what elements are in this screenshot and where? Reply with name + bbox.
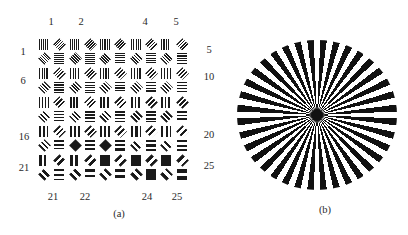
diagonal-bars bbox=[161, 139, 174, 152]
horizontal-bars bbox=[146, 111, 156, 122]
column-label-bottom: 21 bbox=[48, 192, 59, 203]
diagonal-bars bbox=[84, 96, 97, 109]
test-element-14 bbox=[129, 95, 160, 124]
test-element-18 bbox=[98, 124, 129, 153]
diagonal-bars bbox=[161, 81, 174, 94]
diagonal-bars bbox=[161, 168, 174, 181]
test-element-1 bbox=[37, 37, 68, 66]
vertical-bars bbox=[161, 97, 171, 108]
diagonal-bars bbox=[130, 52, 143, 65]
test-element-3 bbox=[98, 37, 129, 66]
diagonal-bars bbox=[53, 67, 66, 80]
vertical-bars bbox=[70, 97, 80, 108]
diagonal-bars bbox=[38, 110, 51, 123]
column-label: 5 bbox=[173, 17, 178, 28]
vertical-bars bbox=[100, 126, 110, 137]
test-element-10 bbox=[159, 66, 190, 95]
horizontal-bars bbox=[115, 169, 125, 180]
diagonal-bars bbox=[176, 154, 189, 167]
vertical-bars bbox=[39, 97, 49, 108]
test-element-19 bbox=[129, 124, 160, 153]
diagonal-bars bbox=[115, 67, 128, 80]
vertical-bars bbox=[161, 68, 171, 79]
diagonal-bars bbox=[53, 125, 66, 138]
horizontal-bars bbox=[54, 169, 64, 180]
row-label-left: 1 bbox=[20, 47, 25, 58]
row-label-left: 6 bbox=[20, 76, 25, 87]
horizontal-bars bbox=[146, 82, 156, 93]
diagonal-bars bbox=[99, 52, 112, 65]
vertical-bars bbox=[100, 155, 110, 166]
diagonal-bars bbox=[176, 38, 189, 51]
vertical-bars bbox=[39, 68, 49, 79]
horizontal-bars bbox=[115, 82, 125, 93]
test-element-9 bbox=[129, 66, 160, 95]
test-element-11 bbox=[37, 95, 68, 124]
diagonal-bars bbox=[38, 168, 51, 181]
horizontal-bars bbox=[54, 53, 64, 64]
row-label-right: 10 bbox=[204, 72, 215, 83]
diagonal-bars bbox=[115, 125, 128, 138]
horizontal-bars bbox=[54, 111, 64, 122]
diagonal-bars bbox=[69, 110, 82, 123]
column-label: 4 bbox=[142, 17, 147, 28]
horizontal-bars bbox=[177, 140, 187, 151]
diagonal-bars bbox=[99, 110, 112, 123]
vertical-bars bbox=[161, 155, 171, 166]
diagonal-bars bbox=[69, 168, 82, 181]
horizontal-bars bbox=[85, 169, 95, 180]
horizontal-bars bbox=[177, 111, 187, 122]
diagonal-bars bbox=[69, 81, 82, 94]
diagonal-bars bbox=[99, 139, 112, 152]
row-label-left: 21 bbox=[19, 163, 30, 174]
diagonal-bars bbox=[69, 139, 82, 152]
column-label: 2 bbox=[78, 17, 83, 28]
diagonal-bars bbox=[53, 96, 66, 109]
figure-b-caption: (b) bbox=[319, 205, 331, 216]
test-element-22 bbox=[68, 153, 99, 182]
horizontal-bars bbox=[85, 53, 95, 64]
row-label-right: 20 bbox=[204, 130, 215, 141]
vertical-bars bbox=[100, 97, 110, 108]
horizontal-bars bbox=[177, 169, 187, 180]
diagonal-bars bbox=[176, 67, 189, 80]
diagonal-bars bbox=[130, 139, 143, 152]
test-element-15 bbox=[159, 95, 190, 124]
horizontal-bars bbox=[115, 140, 125, 151]
siemens-star-center bbox=[311, 109, 323, 121]
test-element-16 bbox=[37, 124, 68, 153]
horizontal-bars bbox=[146, 140, 156, 151]
test-element-12 bbox=[68, 95, 99, 124]
diagonal-bars bbox=[99, 168, 112, 181]
vertical-bars bbox=[161, 126, 171, 137]
horizontal-bars bbox=[146, 53, 156, 64]
test-element-17 bbox=[68, 124, 99, 153]
vertical-bars bbox=[131, 155, 141, 166]
column-label: 1 bbox=[48, 17, 53, 28]
diagonal-bars bbox=[84, 154, 97, 167]
column-label-bottom: 22 bbox=[80, 192, 91, 203]
horizontal-bars bbox=[115, 111, 125, 122]
test-element-23 bbox=[98, 153, 129, 182]
vertical-bars bbox=[39, 126, 49, 137]
vertical-bars bbox=[131, 126, 141, 137]
column-label-bottom: 25 bbox=[172, 192, 183, 203]
horizontal-bars bbox=[85, 111, 95, 122]
diagonal-bars bbox=[176, 96, 189, 109]
test-element-25 bbox=[159, 153, 190, 182]
diagonal-bars bbox=[53, 38, 66, 51]
diagonal-bars bbox=[130, 81, 143, 94]
diagonal-bars bbox=[38, 139, 51, 152]
test-element-5 bbox=[159, 37, 190, 66]
horizontal-bars bbox=[177, 53, 187, 64]
diagonal-bars bbox=[84, 67, 97, 80]
row-label-right: 25 bbox=[204, 161, 215, 172]
figure-a-caption: (a) bbox=[113, 209, 125, 220]
horizontal-bars bbox=[54, 140, 64, 151]
diagonal-bars bbox=[115, 38, 128, 51]
test-element-6 bbox=[37, 66, 68, 95]
test-element-7 bbox=[68, 66, 99, 95]
diagonal-bars bbox=[99, 81, 112, 94]
row-label-left: 16 bbox=[19, 132, 30, 143]
diagonal-bars bbox=[145, 125, 158, 138]
